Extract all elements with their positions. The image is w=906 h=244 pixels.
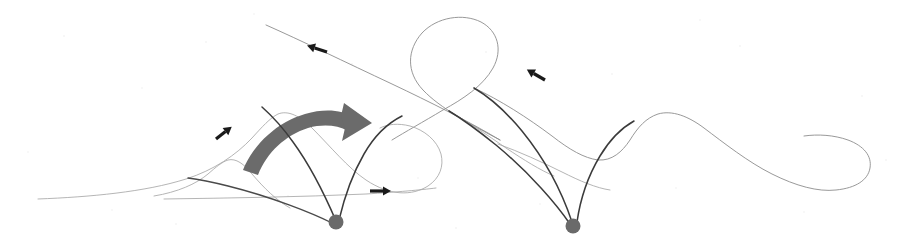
figure-canvas: [0, 0, 906, 244]
saddle-point-left: [329, 215, 344, 230]
phase-portrait-figure: [0, 0, 906, 244]
figure-background: [0, 0, 906, 244]
saddle-point-right: [566, 219, 581, 234]
